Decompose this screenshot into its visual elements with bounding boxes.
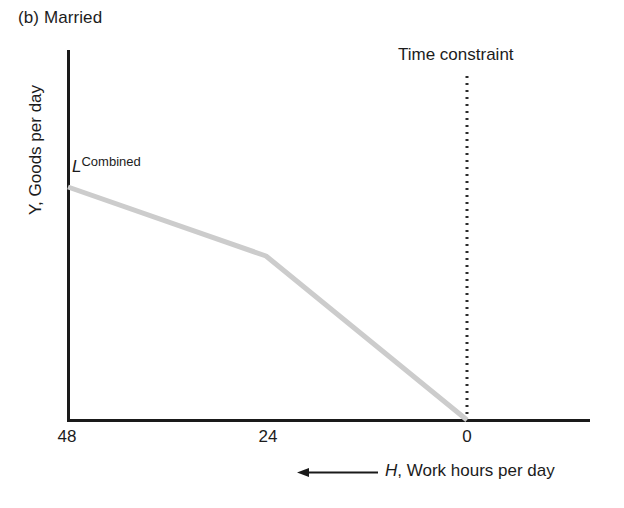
- x-axis-label-variable: H: [385, 461, 397, 480]
- x-tick-label-0: 0: [447, 427, 487, 447]
- figure-panel-b-married: (b) Married Y, Goods per day Time constr…: [0, 0, 624, 508]
- x-tick-label-24: 24: [248, 427, 288, 447]
- left-arrow-icon: [297, 468, 378, 477]
- series-l-combined: [68, 187, 467, 420]
- x-tick-label-48: 48: [47, 427, 87, 447]
- x-axis-label-text: , Work hours per day: [397, 461, 554, 480]
- plot-area: [0, 0, 624, 508]
- x-axis-label: H, Work hours per day: [385, 461, 555, 481]
